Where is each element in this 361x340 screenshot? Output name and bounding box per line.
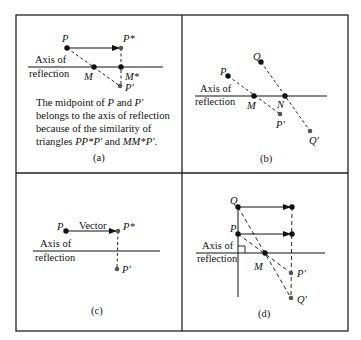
label-m-star: M*: [124, 71, 140, 82]
panel-d: Axis of reflection Q P M P' Q' (d): [196, 195, 325, 320]
desc-text: and: [114, 97, 135, 108]
point-m: [251, 93, 256, 98]
point-p-prime: [115, 267, 120, 272]
axis-label-line2: reflection: [29, 68, 70, 79]
point-p-prime: [278, 112, 283, 117]
label-p: P: [229, 223, 237, 234]
label-m: M: [246, 100, 257, 111]
dashed-segment-pstar-pprime: [117, 231, 118, 269]
right-angle-marker: [238, 246, 245, 253]
label-p-prime: P': [275, 119, 285, 130]
point-m: [262, 250, 267, 255]
label-p-star: P*: [122, 221, 135, 232]
point-m-star: [118, 64, 123, 69]
panel-b: Axis of reflection Q P M N P' Q' (b): [195, 51, 327, 165]
label-p-prime: P': [124, 82, 134, 93]
axis-label-line2: reflection: [197, 253, 238, 264]
figure-canvas: Axis of reflection P P* M M* P' (a) Axis…: [0, 0, 361, 340]
label-n: N: [276, 99, 285, 110]
panel-caption: (a): [93, 152, 105, 164]
label-q-prime: Q': [297, 294, 308, 305]
point-p-star: [289, 231, 294, 236]
desc-point-p-prime: P': [135, 97, 144, 108]
label-q: Q: [253, 51, 261, 62]
point-q-star: [289, 204, 294, 209]
label-p: P: [61, 33, 69, 44]
panel-caption: (b): [260, 153, 273, 165]
point-m: [91, 64, 96, 69]
panel-a-description: The midpoint of P and P' belongs to the …: [36, 96, 176, 148]
label-p: P: [219, 66, 227, 77]
point-n: [282, 93, 287, 98]
panel-caption: (c): [91, 305, 103, 317]
axis-label-line1: Axis of: [202, 240, 234, 251]
point-q-prime: [289, 296, 294, 301]
point-p-prime: [289, 271, 294, 276]
panel-caption: (d): [258, 308, 271, 320]
point-p-prime: [118, 84, 123, 89]
dashed-vertical-image-line: [291, 207, 292, 298]
label-q: Q: [230, 195, 238, 206]
point-p: [64, 45, 69, 50]
desc-text: and: [102, 136, 123, 147]
label-q-prime: Q': [309, 135, 320, 146]
panel-c: Axis of reflection P Vector P* P' (c): [33, 220, 160, 317]
label-m: M: [253, 261, 264, 272]
axis-label-line1: Axis of: [35, 54, 67, 65]
axis-label-line2: reflection: [35, 252, 76, 263]
desc-text: .: [154, 136, 157, 147]
axis-label-line1: Axis of: [40, 238, 72, 249]
label-p-star: P*: [122, 33, 135, 44]
desc-triangle-2: MM*P': [123, 136, 155, 147]
point-p: [63, 228, 68, 233]
desc-text: The midpoint of: [36, 97, 108, 108]
axis-label-line1: Axis of: [200, 83, 232, 94]
point-q-prime: [308, 129, 313, 134]
point-p-star: [116, 229, 121, 234]
label-m: M: [83, 71, 94, 82]
label-p-prime: P': [121, 264, 131, 275]
desc-triangle-1: PP*P': [75, 136, 102, 147]
vector-label: Vector: [79, 220, 107, 231]
label-p-prime: P': [296, 268, 306, 279]
axis-label-line2: reflection: [195, 96, 236, 107]
point-p-star: [119, 46, 124, 51]
label-p: P: [56, 221, 64, 232]
